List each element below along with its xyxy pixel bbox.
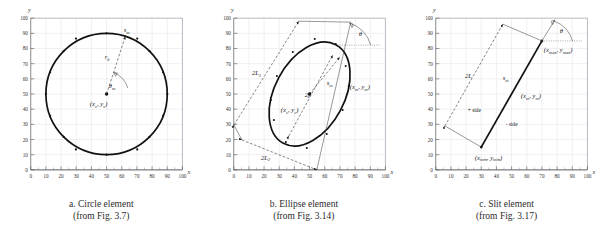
y-tick-0: 0 <box>228 167 231 173</box>
x-tick-20: 20 <box>464 173 470 179</box>
x-tick-10: 10 <box>449 173 455 179</box>
caption-slit-line1: c. Slit element <box>405 198 608 210</box>
y-tick-10: 10 <box>225 152 231 158</box>
x-axis-label: x <box>592 168 596 175</box>
y-tick-30: 30 <box>225 121 231 127</box>
label-theta: θ <box>358 30 362 37</box>
label-2L: 2L <box>465 72 472 79</box>
y-tick-80: 80 <box>225 45 231 51</box>
label-max-coord: (xmax, ymax) <box>544 46 573 55</box>
y-tick-70: 70 <box>428 61 434 67</box>
caption-circle: a. Circle element (from Fig. 3.7) <box>0 198 203 222</box>
y-tick-labels: 0 10 20 30 40 50 60 70 80 90 100 <box>425 15 433 173</box>
x-tick-50: 50 <box>509 173 515 179</box>
focal-axis-arrow <box>288 55 332 136</box>
y-axis-label: y <box>27 6 31 13</box>
panel-ellipse: 0 10 20 30 40 50 60 70 80 90 100 0 10 20… <box>203 0 406 248</box>
x-tick-50: 50 <box>104 173 110 179</box>
caption-ellipse-line2: (from Fig. 3.14) <box>203 210 406 222</box>
y-tick-0: 0 <box>431 167 434 173</box>
y-axis-label: y <box>230 6 234 13</box>
y-tick-labels: 0 10 20 30 40 50 60 70 80 90 100 <box>20 15 28 173</box>
x-axis-label: x <box>389 168 393 175</box>
y-tick-50: 50 <box>23 91 29 97</box>
x-ticks <box>31 166 183 170</box>
x-tick-100: 100 <box>179 173 187 179</box>
label-sm: sm <box>326 79 333 88</box>
x-tick-90: 90 <box>165 173 171 179</box>
y-tick-70: 70 <box>23 61 29 67</box>
label-center-ellipse: (xc, yc) <box>280 106 298 115</box>
y-tick-40: 40 <box>23 106 29 112</box>
y-tick-70: 70 <box>225 61 231 67</box>
y-tick-30: 30 <box>23 121 29 127</box>
angle-arc <box>114 73 128 88</box>
x-tick-80: 80 <box>352 173 358 179</box>
y-tick-20: 20 <box>225 137 231 143</box>
label-sm: sm <box>503 74 510 83</box>
angle-arc <box>553 21 572 41</box>
y-tick-30: 30 <box>428 121 434 127</box>
y-tick-100: 100 <box>425 15 433 21</box>
y-tick-80: 80 <box>428 45 434 51</box>
caption-ellipse: b. Ellipse element (from Fig. 3.14) <box>203 198 406 222</box>
x-tick-80: 80 <box>150 173 156 179</box>
y-tick-60: 60 <box>23 76 29 82</box>
caption-circle-line2: (from Fig. 3.7) <box>0 210 203 222</box>
connector-top <box>503 24 542 41</box>
x-tick-50: 50 <box>307 173 313 179</box>
y-tick-90: 90 <box>225 30 231 36</box>
three-element-figure: 0 10 20 30 40 50 60 70 80 90 100 0 10 20… <box>0 0 608 248</box>
x-tick-60: 60 <box>322 173 328 179</box>
x-tick-0: 0 <box>29 173 32 179</box>
label-theta-m: θm <box>109 82 116 91</box>
x-tick-labels: 0 10 20 30 40 50 60 70 80 90 100 <box>232 173 389 179</box>
y-tick-100: 100 <box>223 15 231 21</box>
y-ticks <box>31 18 35 170</box>
y-tick-40: 40 <box>428 106 434 112</box>
y-ticks <box>233 18 237 170</box>
label-point-coord: (xm, ym) <box>349 83 369 92</box>
x-tick-30: 30 <box>479 173 485 179</box>
y-tick-80: 80 <box>23 45 29 51</box>
x-tick-labels: 0 10 20 30 40 50 60 70 80 90 100 <box>29 173 186 179</box>
circle-plot: 0 10 20 30 40 50 60 70 80 90 100 0 10 20… <box>0 0 203 200</box>
x-axis-label: x <box>187 168 191 175</box>
y-tick-90: 90 <box>428 30 434 36</box>
label-2L1: 2L1 <box>251 69 260 78</box>
x-ticks <box>436 166 588 170</box>
x-tick-100: 100 <box>584 173 592 179</box>
x-tick-20: 20 <box>261 173 267 179</box>
x-tick-70: 70 <box>337 173 343 179</box>
x-tick-90: 90 <box>367 173 373 179</box>
x-tick-40: 40 <box>89 173 95 179</box>
x-tick-10: 10 <box>246 173 252 179</box>
x-tick-70: 70 <box>134 173 140 179</box>
x-tick-40: 40 <box>291 173 297 179</box>
ellipse-plot: 0 10 20 30 40 50 60 70 80 90 100 0 10 20… <box>203 0 406 200</box>
y-tick-10: 10 <box>23 152 29 158</box>
x-tick-20: 20 <box>58 173 64 179</box>
label-minus-side: - side <box>506 121 518 127</box>
caption-ellipse-line1: b. Ellipse element <box>203 198 406 210</box>
x-tick-30: 30 <box>74 173 80 179</box>
y-tick-90: 90 <box>23 30 29 36</box>
y-tick-50: 50 <box>428 91 434 97</box>
caption-slit: c. Slit element (from Fig. 3.17) <box>405 198 608 222</box>
x-tick-10: 10 <box>43 173 49 179</box>
y-tick-60: 60 <box>428 76 434 82</box>
y-tick-20: 20 <box>428 137 434 143</box>
y-tick-labels: 0 10 20 30 40 50 60 70 80 90 100 <box>223 15 231 173</box>
x-tick-100: 100 <box>381 173 389 179</box>
y-tick-20: 20 <box>23 137 29 143</box>
label-theta: θ <box>560 27 564 34</box>
y-ticks <box>436 18 440 170</box>
label-rb: rb <box>105 53 111 62</box>
y-tick-60: 60 <box>225 76 231 82</box>
caption-circle-line1: a. Circle element <box>0 198 203 210</box>
y-tick-50: 50 <box>225 91 231 97</box>
slit-extension <box>542 20 555 41</box>
y-tick-0: 0 <box>25 167 28 173</box>
connector-bottom <box>445 126 481 147</box>
slit-plot: 0 10 20 30 40 50 60 70 80 90 100 0 10 20… <box>405 0 608 200</box>
